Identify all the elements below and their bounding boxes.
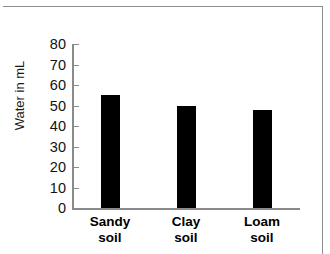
y-tick-label: 10 — [50, 180, 66, 196]
bar — [177, 106, 196, 209]
y-tick-label: 30 — [50, 139, 66, 155]
y-tick-label: 60 — [50, 77, 66, 93]
x-axis-category-label: Loamsoil — [224, 214, 300, 245]
bar-chart-figure: Water in mL 80706050403020100 SandysoilC… — [0, 0, 322, 254]
x-axis-category-label-line: Sandy — [72, 214, 148, 230]
x-axis-category-label-line: soil — [224, 230, 300, 246]
y-tick-mark — [73, 167, 79, 168]
bar — [253, 110, 272, 208]
y-tick-label: 0 — [58, 200, 66, 216]
x-axis-category-label: Claysoil — [148, 214, 224, 245]
x-axis-category-label-line: Loam — [224, 214, 300, 230]
x-axis-category-label-line: Clay — [148, 214, 224, 230]
y-tick-label: 80 — [50, 36, 66, 52]
y-tick-label: 70 — [50, 57, 66, 73]
plot-area: 80706050403020100 SandysoilClaysoilLoams… — [72, 44, 300, 208]
bar — [101, 95, 120, 208]
y-tick-label: 50 — [50, 98, 66, 114]
y-tick-mark — [73, 65, 79, 66]
y-axis-title: Water in mL — [12, 46, 27, 146]
x-axis-category-label-line: soil — [72, 230, 148, 246]
y-tick-mark — [73, 44, 79, 45]
y-tick-mark — [73, 85, 79, 86]
page-frame-right-rule — [322, 6, 323, 254]
y-tick-mark — [73, 106, 79, 107]
x-axis-line — [72, 208, 300, 210]
y-tick-label: 40 — [50, 118, 66, 134]
x-axis-category-label-line: soil — [148, 230, 224, 246]
chart-page: Water in mL 80706050403020100 SandysoilC… — [0, 0, 330, 254]
y-tick-mark — [73, 147, 79, 148]
y-tick-label: 20 — [50, 159, 66, 175]
y-tick-mark — [73, 188, 79, 189]
y-tick-mark — [73, 208, 79, 209]
x-axis-category-label: Sandysoil — [72, 214, 148, 245]
y-tick-mark — [73, 126, 79, 127]
